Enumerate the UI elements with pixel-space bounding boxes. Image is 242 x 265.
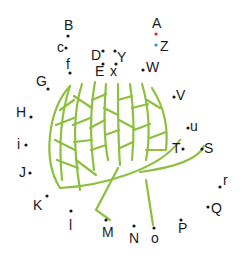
label-point-E: E xyxy=(95,62,105,79)
label-point-S: S xyxy=(200,140,213,156)
leaf-vein xyxy=(142,84,149,160)
leaf-crossvein xyxy=(91,145,106,150)
label-dot xyxy=(179,218,182,221)
label-point-K: K xyxy=(33,194,49,213)
label-text: f xyxy=(66,56,70,72)
label-text: M xyxy=(102,224,114,240)
leaf-crossvein xyxy=(132,104,148,108)
label-point-l: l xyxy=(69,209,73,233)
leaf-stem-left xyxy=(96,168,118,220)
leaf-vein xyxy=(60,86,70,180)
leaf-crossvein xyxy=(118,96,132,100)
label-dot xyxy=(101,62,104,65)
leaf-crossvein xyxy=(60,100,74,110)
label-text: u xyxy=(190,118,198,134)
label-point-D: D xyxy=(91,47,105,63)
label-text: c xyxy=(57,39,64,55)
label-dot xyxy=(101,49,104,52)
label-dot xyxy=(28,171,31,174)
label-dot xyxy=(24,143,27,146)
leaf-stem-right xyxy=(146,180,153,225)
label-dot xyxy=(132,224,135,227)
label-text: Z xyxy=(160,38,169,54)
leaf-crossvein xyxy=(74,140,92,142)
label-text: D xyxy=(91,47,101,63)
label-dot xyxy=(29,115,32,118)
label-dot xyxy=(141,68,144,71)
label-text: Q xyxy=(211,200,222,216)
label-text: B xyxy=(64,17,73,33)
label-text: G xyxy=(36,73,47,89)
label-dot xyxy=(152,226,155,229)
leaf-crossvein xyxy=(104,108,118,115)
label-dot xyxy=(104,218,107,221)
label-dot xyxy=(69,209,72,212)
label-text: W xyxy=(146,59,160,75)
label-text: K xyxy=(33,197,43,213)
label-point-u: u xyxy=(186,118,197,134)
label-text: Y xyxy=(117,49,127,65)
leaf-venation-drawing xyxy=(49,82,204,225)
leaf-crossvein xyxy=(56,118,74,125)
diagram-canvas: AZBcfDYExWGVHuiTSJrKQlMNoP xyxy=(0,0,242,265)
label-dot xyxy=(218,185,221,188)
label-dot xyxy=(206,205,209,208)
label-text: A xyxy=(152,15,162,31)
label-dot xyxy=(113,49,116,52)
label-point-c: c xyxy=(57,39,68,55)
label-dot xyxy=(114,62,117,65)
label-text: o xyxy=(151,230,159,246)
label-dot xyxy=(154,43,157,46)
label-point-f: f xyxy=(66,56,72,75)
label-text: H xyxy=(16,104,26,120)
label-point-V: V xyxy=(172,87,186,103)
label-text: l xyxy=(69,217,72,233)
leaf-crossvein xyxy=(120,142,133,148)
label-point-P: P xyxy=(178,218,187,236)
label-point-o: o xyxy=(151,226,159,246)
label-dot xyxy=(46,87,49,90)
label-point-Z: Z xyxy=(154,38,169,54)
leaf-crossvein xyxy=(105,130,119,135)
label-point-W: W xyxy=(141,59,160,75)
label-text: S xyxy=(204,140,213,156)
label-text: V xyxy=(176,87,186,103)
leaf-vein xyxy=(118,84,120,165)
label-text: r xyxy=(223,172,228,188)
leaf-crossvein xyxy=(55,140,75,150)
label-text: T xyxy=(172,140,181,156)
leaf-labeling-diagram: AZBcfDYExWGVHuiTSJrKQlMNoP xyxy=(0,0,242,265)
label-dot xyxy=(45,194,48,197)
label-point-i: i xyxy=(17,136,28,152)
label-point-H: H xyxy=(16,104,33,120)
label-text: P xyxy=(178,220,187,236)
label-dot xyxy=(186,126,189,129)
label-point-N: N xyxy=(129,224,139,246)
label-dot xyxy=(64,46,67,49)
leaf-vein xyxy=(152,88,167,150)
leaf-crossvein xyxy=(119,120,134,128)
label-dot xyxy=(154,32,157,35)
label-point-Q: Q xyxy=(206,200,222,216)
label-dot xyxy=(200,147,203,150)
label-dot xyxy=(172,95,175,98)
leaf-crossvein xyxy=(150,132,166,138)
label-dot xyxy=(181,147,184,150)
label-text: N xyxy=(129,230,139,246)
label-point-B: B xyxy=(64,17,73,38)
label-point-T: T xyxy=(172,140,185,156)
label-point-M: M xyxy=(102,218,114,240)
point-labels: AZBcfDYExWGVHuiTSJrKQlMNoP xyxy=(16,15,228,246)
label-point-J: J xyxy=(19,164,32,180)
label-point-x: x xyxy=(110,62,118,79)
label-point-G: G xyxy=(36,73,50,91)
label-dot xyxy=(68,71,71,74)
label-point-A: A xyxy=(152,15,162,36)
label-text: J xyxy=(19,164,26,180)
label-dot xyxy=(66,34,69,37)
label-text: i xyxy=(17,136,20,152)
label-point-r: r xyxy=(218,172,228,189)
